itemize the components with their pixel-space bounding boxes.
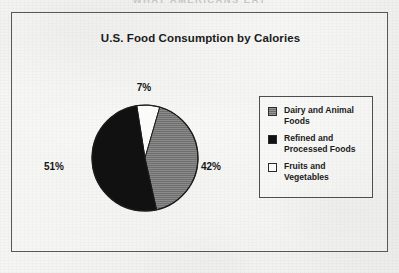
legend: Dairy and Animal Foods Refined and Proce…: [259, 96, 373, 198]
white-swatch-icon: [268, 163, 277, 172]
legend-item-label: Fruits and Vegetables: [284, 161, 366, 182]
gray-swatch-icon: [268, 107, 277, 116]
legend-item: Fruits and Vegetables: [268, 161, 366, 182]
legend-item: Refined and Processed Foods: [268, 133, 366, 154]
scanned-page-background: WHAT AMERICANS EAT U.S. Food Consumption…: [0, 0, 399, 273]
legend-item: Dairy and Animal Foods: [268, 105, 366, 126]
pie-chart-svg: [81, 94, 209, 222]
legend-item-label: Refined and Processed Foods: [284, 133, 366, 154]
slice-data-label-dairy-animal: 42%: [201, 161, 221, 172]
slice-data-label-fruits-vegetables: 7%: [120, 82, 168, 93]
chart-title: U.S. Food Consumption by Calories: [12, 32, 389, 44]
chart-frame: U.S. Food Consumption by Calories 7% 42%…: [11, 12, 388, 252]
running-header: WHAT AMERICANS EAT: [0, 0, 399, 3]
slice-data-label-refined-processed: 51%: [44, 161, 64, 172]
black-swatch-icon: [268, 135, 277, 144]
pie-chart: [81, 94, 209, 222]
legend-item-label: Dairy and Animal Foods: [284, 105, 366, 126]
